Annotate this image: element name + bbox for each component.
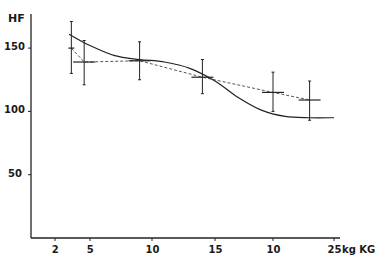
y-axis-label: HF [8,12,25,25]
fitted-curve-line [69,34,334,118]
x-tick-label: 25 [328,244,342,255]
x-tick-label: 15 [209,244,223,255]
fitted-curve [69,34,334,118]
y-tick-label: 100 [4,104,25,115]
x-tick-label: 10 [146,244,160,255]
chart-canvas [0,0,386,265]
x-tick-label: 2 [52,244,59,255]
x-tick-label: 10 [267,244,281,255]
x-tick-label: 5 [87,244,94,255]
y-tick-label: 150 [4,41,25,52]
y-tick-label: 50 [8,168,22,179]
axes [31,14,340,238]
x-axis-unit-label: kg KG [342,244,375,255]
